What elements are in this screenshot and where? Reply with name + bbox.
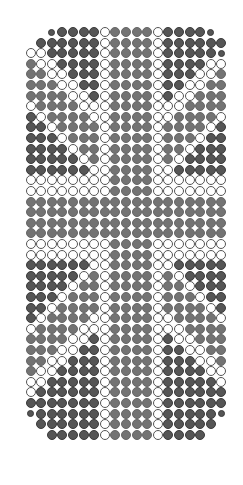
grid-dot [206, 377, 216, 387]
grid-dot [26, 271, 36, 281]
grid-dot [195, 377, 205, 387]
grid-dot [89, 250, 99, 260]
grid-dot [110, 313, 120, 323]
grid-dot [142, 165, 152, 175]
grid-dot [26, 377, 36, 387]
grid-dot [132, 250, 142, 260]
grid-dot [100, 218, 110, 228]
grid-dot [153, 281, 163, 291]
grid-dot [153, 398, 163, 408]
grid-dot [100, 239, 110, 249]
grid-dot [89, 112, 99, 122]
grid-dot [57, 281, 67, 291]
grid-dot [153, 292, 163, 302]
grid-dot [110, 80, 120, 90]
grid-dot [153, 334, 163, 344]
grid-dot [57, 186, 67, 196]
grid-dot [79, 356, 89, 366]
grid-dot [163, 303, 173, 313]
grid-dot [163, 154, 173, 164]
grid-dot [57, 175, 67, 185]
grid-dot [89, 334, 99, 344]
grid-dot [47, 334, 57, 344]
grid-dot [57, 228, 67, 238]
grid-dot [89, 281, 99, 291]
grid-dot [132, 27, 142, 37]
grid-dot [153, 59, 163, 69]
grid-dot [79, 419, 89, 429]
grid-dot [57, 207, 67, 217]
grid-dot [195, 154, 205, 164]
grid-dot [36, 356, 46, 366]
grid-dot [47, 387, 57, 397]
grid-dot [185, 239, 195, 249]
grid-dot [100, 48, 110, 58]
grid-dot [110, 165, 120, 175]
grid-dot [26, 366, 36, 376]
grid-dot [195, 292, 205, 302]
grid-dot [185, 271, 195, 281]
grid-dot [185, 430, 195, 440]
grid-dot [195, 228, 205, 238]
grid-dot [89, 175, 99, 185]
grid-dot [142, 175, 152, 185]
grid-dot [100, 356, 110, 366]
grid-dot [36, 80, 46, 90]
grid-dot [132, 356, 142, 366]
grid-dot [121, 430, 131, 440]
grid-dot [206, 281, 216, 291]
grid-dot [47, 313, 57, 323]
grid-dot [132, 186, 142, 196]
grid-dot [132, 303, 142, 313]
grid-dot [121, 303, 131, 313]
grid-dot [163, 387, 173, 397]
grid-dot [36, 59, 46, 69]
grid-dot [110, 292, 120, 302]
grid-dot [79, 377, 89, 387]
grid-dot [26, 260, 36, 270]
grid-dot [132, 239, 142, 249]
grid-dot [206, 271, 216, 281]
grid-dot [132, 409, 142, 419]
grid-dot [47, 398, 57, 408]
grid-dot [36, 260, 46, 270]
grid-dot [26, 133, 36, 143]
grid-dot [185, 112, 195, 122]
grid-dot [185, 250, 195, 260]
grid-dot [57, 218, 67, 228]
grid-dot [57, 101, 67, 111]
grid-dot [218, 50, 225, 57]
grid-dot [68, 69, 78, 79]
grid-dot [153, 27, 163, 37]
grid-dot [132, 377, 142, 387]
grid-dot [57, 292, 67, 302]
grid-dot [153, 356, 163, 366]
grid-dot [110, 101, 120, 111]
grid-dot [195, 409, 205, 419]
grid-dot [110, 250, 120, 260]
grid-dot [216, 144, 226, 154]
grid-dot [68, 154, 78, 164]
grid-dot [174, 281, 184, 291]
grid-dot [216, 303, 226, 313]
grid-dot [110, 303, 120, 313]
grid-dot [142, 218, 152, 228]
grid-dot [163, 27, 173, 37]
grid-dot [185, 377, 195, 387]
grid-dot [36, 122, 46, 132]
grid-dot [174, 345, 184, 355]
grid-dot [100, 271, 110, 281]
grid-dot [47, 175, 57, 185]
grid-dot [153, 303, 163, 313]
grid-dot [206, 387, 216, 397]
grid-dot [100, 59, 110, 69]
grid-dot [174, 144, 184, 154]
grid-dot [121, 228, 131, 238]
grid-dot [132, 334, 142, 344]
grid-dot [195, 345, 205, 355]
grid-dot [206, 91, 216, 101]
grid-dot [47, 91, 57, 101]
grid-dot [195, 27, 205, 37]
grid-dot [132, 398, 142, 408]
grid-dot [142, 345, 152, 355]
